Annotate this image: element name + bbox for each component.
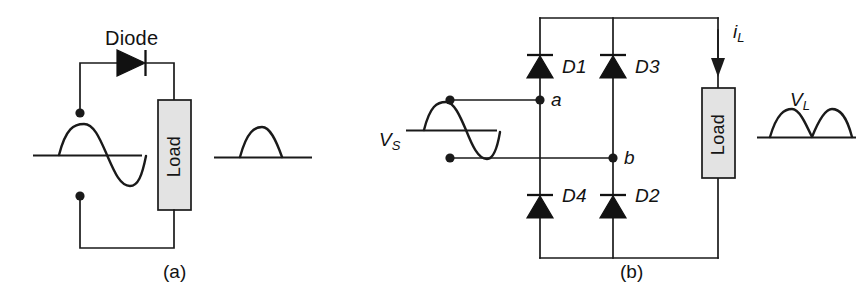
diode-D1-triangle-icon	[527, 56, 553, 78]
panel-b-terminal-dot-bottom	[445, 153, 454, 162]
panel-a-caption: (a)	[163, 262, 186, 281]
diode-D2-label: D2	[635, 186, 660, 205]
panel-a-load-label: Load	[164, 129, 185, 184]
diode-D1-label: D1	[562, 57, 587, 76]
panel-b-source-label-main: V	[379, 129, 392, 150]
diode-D2-triangle-icon	[600, 196, 626, 218]
diode-D3-label: D3	[635, 57, 660, 76]
panel-b-source-label: VS	[379, 130, 400, 152]
panel-b-current-label: iL	[733, 22, 744, 44]
panel-a-diode-title-label: Diode	[105, 28, 158, 48]
panel-a-terminal-dot-top	[75, 108, 84, 117]
panel-b-output-label-main: V	[790, 89, 803, 110]
panel-b-node-a-label: a	[551, 90, 562, 109]
panel-a-terminal-dot-bottom	[75, 191, 84, 200]
panel-b-source-label-sub: S	[392, 138, 401, 153]
diode-D4-triangle-icon	[527, 196, 553, 218]
panel-b-node-b-dot	[608, 153, 617, 162]
panel-b-output-label: VL	[790, 90, 810, 112]
panel-b-current-arrow-head-icon	[711, 58, 725, 77]
panel-b-output-label-sub: L	[803, 98, 810, 113]
panel-b-circuit	[406, 18, 856, 258]
diode-D3-triangle-icon	[600, 56, 626, 78]
panel-b-node-b-label: b	[624, 148, 635, 167]
diode-D4-label: D4	[562, 186, 587, 205]
panel-a-diode-out-wire	[147, 63, 174, 100]
panel-a-output-halfwave	[240, 127, 282, 157]
diode-triangle-icon	[117, 50, 145, 76]
panel-b-caption: (b)	[620, 262, 643, 281]
panel-b-node-a-dot	[535, 95, 544, 104]
panel-a-top-wire	[80, 63, 117, 113]
panel-b-current-label-sub: L	[737, 30, 744, 45]
rectifier-figure: Diode Load (a) VS D1 D3 D4 D2 a b iL Loa…	[0, 0, 860, 292]
panel-b-load-label: Load	[708, 107, 729, 162]
panel-b-output-fullwave	[770, 109, 852, 137]
